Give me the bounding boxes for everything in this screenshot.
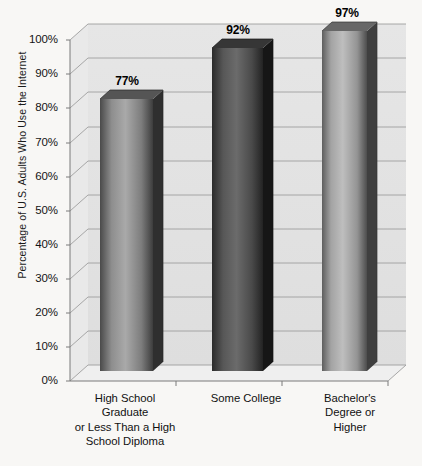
bar-2-side	[263, 39, 273, 371]
category-line: Bachelor's	[295, 391, 405, 405]
bar-3-side	[367, 22, 377, 371]
y-tick-label-10: 10%	[12, 340, 58, 352]
y-tick-label-70: 70%	[12, 136, 58, 148]
bar-2-top	[212, 39, 273, 48]
category-line: or Less Than a High	[32, 420, 218, 434]
bar-high-school-graduate-or-less[interactable]	[100, 90, 163, 371]
category-line: Graduate	[32, 405, 218, 419]
category-line: Some College	[186, 391, 306, 405]
y-tick-label-90: 90%	[12, 67, 58, 79]
y-tick-label-0: 0%	[12, 374, 58, 386]
category-line: Degree or	[295, 405, 405, 419]
category-label-some-college: Some College	[186, 391, 306, 405]
bar-some-college[interactable]	[212, 39, 273, 371]
bar-value-label-1: 77%	[92, 74, 162, 88]
bar-3-front	[322, 31, 367, 371]
y-tick-label-60: 60%	[12, 170, 58, 182]
bar-1-top	[100, 90, 163, 99]
y-tick-label-40: 40%	[12, 238, 58, 250]
bar-1-side	[153, 90, 163, 371]
y-tick-label-20: 20%	[12, 306, 58, 318]
y-tick-label-80: 80%	[12, 101, 58, 113]
bar-chart: Percentage of U.S. Adults Who Use the In…	[0, 0, 422, 466]
bar-value-label-3: 97%	[312, 6, 382, 20]
y-tick-label-100: 100%	[12, 33, 58, 45]
bar-2-front	[212, 48, 263, 371]
y-tick-label-30: 30%	[12, 272, 58, 284]
bar-1-front	[100, 99, 153, 371]
category-line: Higher	[295, 420, 405, 434]
y-tick-label-50: 50%	[12, 204, 58, 216]
category-label-bachelors-degree-or-higher: Bachelor's Degree or Higher	[295, 391, 405, 434]
x-axis	[70, 381, 388, 386]
bar-bachelors-degree-or-higher[interactable]	[322, 22, 377, 371]
category-line: School Diploma	[32, 434, 218, 448]
y-axis	[66, 40, 70, 381]
bar-value-label-2: 92%	[203, 23, 273, 37]
